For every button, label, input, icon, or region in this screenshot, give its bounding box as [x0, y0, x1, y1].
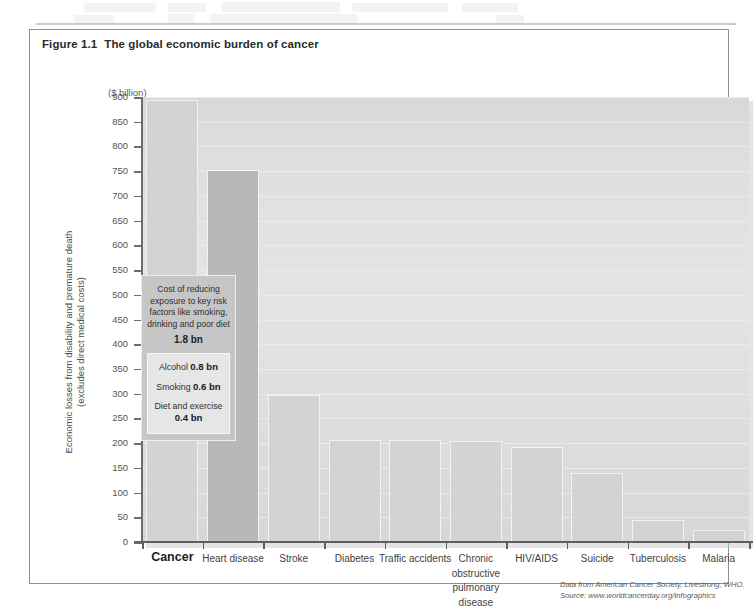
gridline — [142, 146, 749, 147]
y-axis-tick-label: 300 — [88, 388, 128, 399]
x-axis-tick — [263, 541, 265, 549]
bar — [389, 440, 441, 542]
gridline — [142, 122, 749, 123]
y-axis-tick — [134, 443, 142, 445]
y-axis-tick-label: 750 — [88, 165, 128, 176]
x-axis-tick — [142, 541, 144, 549]
y-axis-tick-label: 650 — [88, 215, 128, 226]
x-axis-tick — [506, 541, 508, 549]
y-axis-tick — [134, 245, 142, 247]
y-axis-tick — [134, 270, 142, 272]
callout-row-value: 0.4 bn — [175, 412, 203, 423]
x-axis-tick — [446, 541, 448, 549]
y-axis-tick — [134, 493, 142, 495]
figure-caption: Figure 1.1The global economic burden of … — [42, 38, 319, 50]
y-axis-tick-label: 450 — [88, 314, 128, 325]
bar — [632, 520, 684, 542]
y-axis-tick-label: 400 — [88, 338, 128, 349]
callout-main-text: Cost of reducing exposure to key risk fa… — [147, 284, 230, 346]
source-note: Data from American Cancer Society, Lives… — [560, 579, 752, 601]
x-axis-tick — [749, 541, 751, 549]
y-axis-tick — [134, 221, 142, 223]
gridline — [142, 97, 749, 98]
x-axis-tick — [628, 541, 630, 549]
y-axis-title-line-2: (excludes direct medical costs) — [75, 192, 87, 492]
y-axis-tick — [134, 146, 142, 148]
y-axis-tick-label: 350 — [88, 363, 128, 374]
figure-frame: Figure 1.1The global economic burden of … — [29, 29, 729, 584]
y-axis-title: Economic losses from disability and prem… — [63, 192, 87, 492]
x-axis-tick — [203, 541, 205, 549]
y-axis-tick-label: 150 — [88, 462, 128, 473]
bar — [511, 447, 563, 542]
y-axis-tick-label: 600 — [88, 239, 128, 250]
y-axis-tick — [134, 171, 142, 173]
y-axis-tick-label: 50 — [88, 511, 128, 522]
x-axis-tick — [688, 541, 690, 549]
callout-row: Smoking 0.6 bn — [152, 381, 225, 394]
y-axis-tick — [134, 196, 142, 198]
x-axis-tick — [385, 541, 387, 549]
y-axis-tick-label: 200 — [88, 437, 128, 448]
x-axis-label: Malaria — [682, 552, 753, 567]
y-axis-title-line-1: Economic losses from disability and prem… — [63, 192, 75, 492]
y-axis-tick-label: 500 — [88, 289, 128, 300]
callout-main-value: 1.8 bn — [147, 334, 230, 346]
y-axis-tick — [134, 122, 142, 124]
callout-row: Diet and exercise 0.4 bn — [152, 401, 225, 426]
y-axis-tick-label: 100 — [88, 487, 128, 498]
callout-row-label: Diet and exercise — [155, 401, 223, 411]
y-axis-tick — [134, 468, 142, 470]
bar — [571, 473, 623, 542]
callout-row: Alcohol 0.8 bn — [152, 361, 225, 374]
y-axis-tick — [134, 517, 142, 519]
callout-breakdown: Alcohol 0.8 bnSmoking 0.6 bnDiet and exe… — [147, 353, 230, 434]
y-axis-tick-label: 250 — [88, 412, 128, 423]
callout-row-value: 0.6 bn — [193, 381, 221, 392]
y-axis-tick-label: 0 — [88, 536, 128, 547]
figure-number: Figure 1.1 — [42, 38, 97, 50]
y-axis-tick-label: 850 — [88, 116, 128, 127]
scan-rule — [36, 23, 736, 25]
figure-caption-text: The global economic burden of cancer — [104, 38, 318, 50]
y-axis-tick — [134, 97, 142, 99]
callout-row-label: Smoking — [156, 382, 193, 392]
callout-row-label: Alcohol — [159, 362, 190, 372]
x-axis-tick — [567, 541, 569, 549]
y-axis-tick-label: 900 — [88, 91, 128, 102]
x-axis-tick — [324, 541, 326, 549]
y-axis-tick-label: 550 — [88, 264, 128, 275]
callout-row-value: 0.8 bn — [190, 361, 218, 372]
y-axis-tick — [134, 542, 142, 544]
x-axis-line — [134, 541, 753, 543]
y-axis-tick-label: 800 — [88, 140, 128, 151]
bar — [329, 440, 381, 542]
y-axis-tick-label: 700 — [88, 190, 128, 201]
callout-box: Cost of reducing exposure to key risk fa… — [141, 275, 236, 441]
bar — [268, 395, 320, 542]
bar — [450, 441, 502, 542]
callout-main-body: Cost of reducing exposure to key risk fa… — [147, 284, 230, 329]
